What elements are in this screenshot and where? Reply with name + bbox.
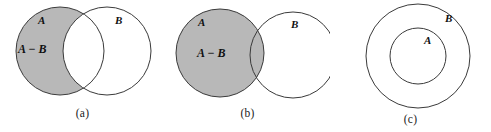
panel-a-caption: (a) (0, 107, 165, 119)
label-set-a: A (197, 16, 205, 28)
label-set-b: B (290, 18, 298, 30)
label-set-a: A (37, 14, 45, 26)
label-set-b: B (444, 12, 452, 24)
label-set-a: A (423, 34, 431, 46)
circle-b-outline (366, 4, 470, 108)
panel-c-diagram: B A (330, 0, 491, 118)
label-a-minus-b: A − B (17, 42, 47, 56)
panel-a-diagram: A A − B B (0, 0, 165, 105)
panel-b-caption: (b) (165, 107, 330, 119)
panel-b: A A − B B (b) (165, 0, 330, 132)
panel-a: A A − B B (a) (0, 0, 165, 132)
label-set-b: B (114, 14, 122, 26)
panel-b-diagram: A A − B B (165, 0, 330, 105)
label-a-minus-b: A − B (196, 46, 226, 60)
panel-c-caption: (c) (330, 113, 491, 125)
circle-a-outline (390, 28, 446, 84)
panel-c: B A (c) (330, 0, 491, 132)
venn-figure: A A − B B (a) A A − B B (b) B A (c) (0, 0, 491, 132)
